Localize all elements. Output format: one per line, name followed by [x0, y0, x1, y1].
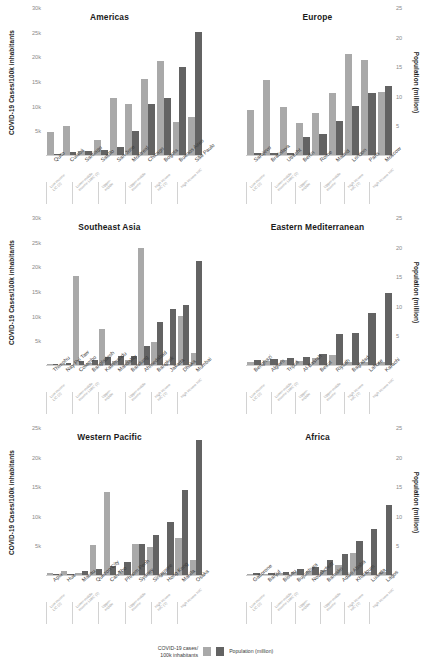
bar-population — [195, 32, 202, 155]
income-group-bracket: Lower-middle income LMIC (2) — [72, 392, 99, 414]
bar-population — [352, 106, 359, 155]
bar-group — [109, 8, 125, 155]
bar-group — [93, 8, 109, 155]
y-tick-left: 10k — [32, 314, 41, 320]
bar-cases — [141, 79, 148, 156]
covid-population-city-figure: Americas COVID-19 Cases/100k inhabitants… — [0, 0, 431, 664]
income-group-bracket: Upper-middle income — [320, 602, 346, 624]
income-group-brackets: Low income LIC (2) Lower-middle income L… — [46, 392, 203, 418]
panel-southeast-asia: Southeast Asia COVID-19 Cases/100k inhab… — [8, 210, 211, 420]
income-group-bracket: Upper- middle — [98, 182, 125, 204]
income-group-bracket: Upper-middle income — [320, 392, 346, 414]
panel-row: Western Pacific COVID-19 Cases/100k inha… — [0, 420, 431, 630]
legend-population-label: Population (million) — [229, 648, 273, 655]
y-tick-left: 15k — [32, 484, 41, 490]
income-group-bracket: Low income LIC (2) — [246, 182, 272, 204]
bar-cases — [73, 276, 79, 365]
legend-population-swatch — [216, 647, 224, 656]
bar-group — [262, 218, 278, 365]
income-group-bracket: High income HIC (2) — [344, 182, 370, 204]
y-tick-right: 5 — [396, 543, 399, 549]
y-tick-right: 5 — [396, 333, 399, 339]
income-group-bracket: High income HIC — [369, 392, 395, 414]
y-tick-left: 5k — [35, 543, 41, 549]
bar-group — [377, 218, 393, 365]
bar-group — [140, 8, 156, 155]
bar-population — [368, 93, 375, 155]
bar-group — [111, 218, 124, 365]
bar-group — [132, 428, 146, 575]
income-group-bracket: High income HIC — [177, 182, 204, 204]
bar-group — [160, 428, 174, 575]
figure-legend: COVID-19 cases/ 100k inhabitants Populat… — [0, 645, 431, 658]
y-tick-right: 20 — [396, 245, 402, 251]
y-axis-right: 252015105 — [393, 8, 419, 156]
income-group-bracket: Upper- middle — [98, 392, 125, 414]
income-group-bracket: High income HIC — [177, 602, 204, 624]
y-axis-left: 30k25k20k15k10k5k — [8, 8, 44, 156]
income-group-bracket: Lower-middle income LMIC (2) — [72, 182, 99, 204]
bar-group — [295, 218, 311, 365]
bar-group — [311, 8, 327, 155]
panel-row: Americas COVID-19 Cases/100k inhabitants… — [0, 0, 431, 210]
bar-group — [103, 428, 117, 575]
bar-cases — [47, 132, 54, 155]
bar-group — [189, 428, 203, 575]
bar-group — [85, 218, 98, 365]
bar-group — [328, 8, 344, 155]
bar-group — [261, 428, 276, 575]
y-tick-left: 25k — [32, 30, 41, 36]
plot-area — [246, 8, 393, 156]
income-group-bracket: Upper-middle income — [320, 182, 346, 204]
bar-cases — [361, 60, 368, 155]
y-tick-right: 10 — [396, 514, 402, 520]
bar-population — [386, 505, 392, 575]
bar-group — [72, 218, 85, 365]
income-group-bracket: Lower-middle income LMIC (2) — [271, 602, 297, 624]
income-group-brackets: Low income LIC (2) Lower-middle income L… — [246, 182, 393, 208]
income-group-bracket: High income HIC — [369, 182, 395, 204]
y-tick-right: 25 — [396, 5, 402, 11]
legend-cases-swatch — [203, 647, 211, 656]
bar-group — [62, 8, 78, 155]
income-group-brackets: Low income LIC (2) Lower-middle income L… — [46, 602, 203, 628]
bar-population — [385, 86, 392, 155]
bar-group — [77, 8, 93, 155]
bar-group — [190, 218, 203, 365]
y-tick-left: 5k — [35, 338, 41, 344]
y-tick-left: 20k — [32, 264, 41, 270]
income-group-bracket: Lower-middle income LMIC (2) — [271, 182, 297, 204]
y-tick-right: 15 — [396, 274, 402, 280]
income-group-bracket: Upper- middle — [295, 392, 321, 414]
plot-area — [46, 8, 203, 156]
income-group-bracket: High income HIC (2) — [151, 602, 178, 624]
plot-area — [46, 428, 203, 576]
plot-area — [246, 218, 393, 366]
bar-population — [196, 261, 202, 365]
income-group-bracket: Upper- middle — [98, 602, 125, 624]
legend-cases-label: COVID-19 cases/ 100k inhabitants — [158, 645, 198, 658]
bar-group — [75, 428, 89, 575]
y-axis-right: 252015105 — [393, 428, 419, 576]
bars-container — [46, 8, 203, 155]
y-tick-right: 10 — [396, 94, 402, 100]
bar-group — [146, 428, 160, 575]
income-group-bracket: Upper- middle — [295, 182, 321, 204]
plot-area — [246, 428, 393, 576]
y-tick-right: 20 — [396, 455, 402, 461]
income-group-bracket: Low income LIC (2) — [46, 392, 73, 414]
y-tick-right: 15 — [396, 484, 402, 490]
bar-group — [334, 428, 349, 575]
bar-group — [378, 428, 393, 575]
plot-area — [46, 218, 203, 366]
bar-group — [246, 428, 261, 575]
panel-africa: Africa Population (million) 252015105 — [216, 420, 419, 630]
bar-group — [279, 8, 295, 155]
bars-container — [46, 218, 203, 365]
bar-group — [246, 8, 262, 155]
bar-cases — [247, 110, 254, 155]
bar-group — [46, 428, 60, 575]
income-group-bracket: Upper-middle income — [125, 392, 152, 414]
y-axis-left: 25k20k15k10k5k — [8, 428, 44, 576]
y-tick-left: 15k — [32, 289, 41, 295]
